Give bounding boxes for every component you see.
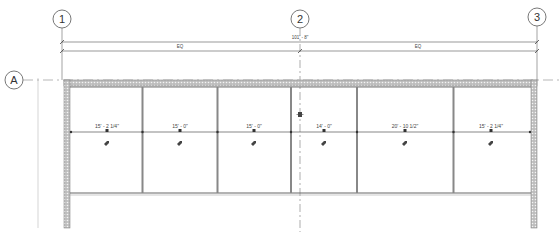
- grid-label-A: A: [10, 74, 18, 86]
- grid-label-2: 2: [297, 13, 303, 25]
- room-tag-icon: [402, 141, 407, 146]
- grid-label-3: 3: [534, 11, 540, 23]
- room-6-width: 15' - 2 1/4": [479, 123, 503, 129]
- overall-dimension-text: 101' - 8": [292, 35, 309, 40]
- room-6[interactable]: 15' - 2 1/4": [479, 123, 503, 146]
- room-tag-icon: [177, 141, 182, 146]
- room-1-width: 15' - 2 1/4": [95, 123, 119, 129]
- room-4-width: 14' - 0": [316, 123, 332, 129]
- overall-dimension: 101' - 8": [60, 35, 539, 44]
- room-tag-icon: [104, 141, 109, 146]
- grid-bubble-2[interactable]: 2: [291, 10, 309, 28]
- floor-plan-drawing: 1 2 3 A 101' - 8" EQ EQ: [0, 0, 559, 234]
- grid-bubble-3[interactable]: 3: [528, 8, 546, 26]
- partition-walls: [142, 87, 455, 193]
- door-marker-icon: [297, 112, 304, 117]
- grid-label-1: 1: [59, 13, 65, 25]
- room-3[interactable]: 15' - 0": [246, 123, 262, 146]
- room-5-width: 20' - 10 1/2": [392, 123, 419, 129]
- eq-left-text: EQ: [177, 44, 184, 49]
- room-2-width: 15' - 0": [172, 123, 188, 129]
- room-2[interactable]: 15' - 0": [172, 123, 188, 146]
- room-4[interactable]: 14' - 0": [316, 123, 332, 146]
- eq-dimension: EQ EQ: [60, 44, 539, 53]
- grid-bubble-1[interactable]: 1: [53, 10, 71, 28]
- rooms-outline: [70, 87, 531, 195]
- room-5[interactable]: 20' - 10 1/2": [392, 123, 419, 146]
- room-tag-icon: [321, 141, 326, 146]
- room-3-width: 15' - 0": [246, 123, 262, 129]
- grid-bubble-A[interactable]: A: [5, 71, 23, 89]
- eq-right-text: EQ: [415, 44, 422, 49]
- exterior-wall[interactable]: [64, 80, 537, 228]
- room-tag-icon: [488, 141, 493, 146]
- room-tag-icon: [251, 141, 256, 146]
- room-1[interactable]: 15' - 2 1/4": [95, 123, 119, 146]
